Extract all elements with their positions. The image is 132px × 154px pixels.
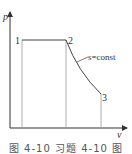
curve-label: s=const [88, 52, 116, 62]
point-label-2: 2 [68, 35, 73, 46]
point-label-1: 1 [15, 35, 20, 46]
y-axis-label: p [2, 11, 8, 22]
process-2-3-isentropic [66, 40, 101, 94]
pv-diagram: p v 1 2 3 s=const [0, 0, 132, 154]
curve-label-leader [77, 57, 88, 62]
figure-caption: 图 4-10 习题 4-10 图 [0, 140, 132, 154]
point-label-3: 3 [102, 92, 107, 103]
x-axis-label: v [117, 129, 122, 140]
